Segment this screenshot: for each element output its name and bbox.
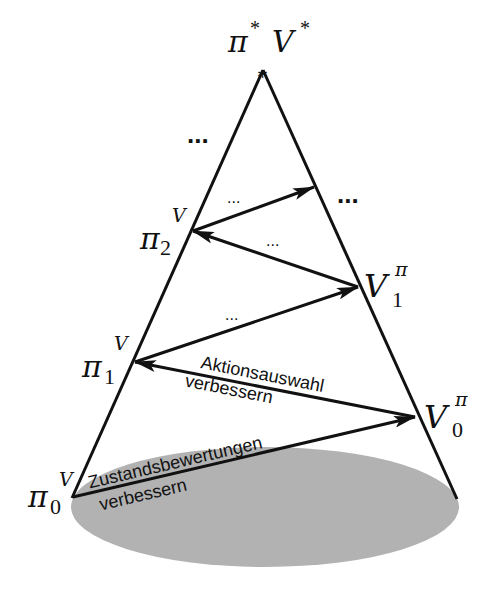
svg-text:V: V (114, 332, 130, 354)
svg-text:π: π (139, 221, 161, 256)
cone-left-edge (72, 70, 263, 498)
svg-text:0: 0 (50, 494, 61, 519)
svg-text:1: 1 (392, 287, 403, 312)
ellipsis-upper-arrow: ... (227, 189, 240, 206)
arrow-pi2-to-next (193, 187, 314, 231)
svg-text:π: π (394, 258, 408, 280)
arrow-pi1-to-V1 (135, 287, 358, 362)
svg-text:V: V (172, 204, 188, 226)
ellipsis-right-outside: ... (337, 179, 359, 209)
ellipsis-lower-arrow: ... (225, 306, 238, 323)
svg-text:V: V (424, 398, 450, 436)
svg-text:*: * (300, 17, 310, 39)
svg-text:π: π (454, 388, 468, 410)
apex-label: π * V * (227, 17, 310, 59)
apex-star-marker: * (257, 64, 268, 89)
gpi-cone-diagram: * π * V * π 2 V π 1 V π 0 V V 1 π V 0 π … (0, 0, 493, 593)
svg-text:*: * (250, 17, 260, 39)
svg-text:1: 1 (104, 364, 115, 389)
ellipsis-left-outside: ... (187, 119, 209, 149)
svg-text:V: V (364, 267, 390, 305)
svg-text:2: 2 (160, 235, 171, 260)
node-V1-label: V 1 π (364, 258, 408, 312)
svg-text:π: π (81, 349, 103, 384)
node-pi1-label: π 1 V (81, 332, 130, 389)
node-V0-label: V 0 π (424, 388, 468, 442)
node-pi0-label: π 0 V (27, 468, 75, 519)
ellipsis-middle-arrow: ... (266, 232, 279, 249)
svg-text:V: V (59, 468, 75, 490)
svg-text:V: V (272, 24, 297, 59)
svg-text:π: π (27, 479, 49, 514)
svg-text:π: π (227, 24, 249, 59)
svg-text:0: 0 (452, 417, 463, 442)
label-improvement: Aktionsauswahl verbessern (183, 350, 325, 417)
